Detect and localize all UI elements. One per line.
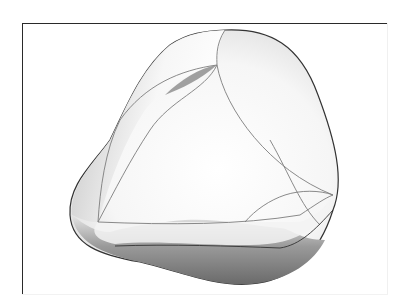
- rounded-tetrahedron-figure: [0, 0, 410, 307]
